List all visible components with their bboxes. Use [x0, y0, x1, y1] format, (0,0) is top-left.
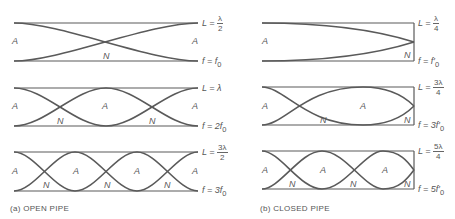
length-equation: L = λ: [202, 84, 222, 93]
frequency-equation: f = f0: [202, 57, 221, 68]
antinode-label: A: [12, 167, 18, 176]
antinode-label: A: [192, 167, 198, 176]
caption-closed-pipe: (b) CLOSED PIPE: [260, 204, 330, 213]
node-label: N: [103, 52, 110, 61]
antinode-label: A: [320, 166, 326, 175]
antinode-label: A: [360, 102, 366, 111]
caption-open-pipe: (a) OPEN PIPE: [10, 204, 69, 213]
node-label: N: [350, 180, 357, 189]
node-label: N: [104, 181, 111, 190]
antinode-label: A: [192, 102, 198, 111]
length-equation: L = λ2: [202, 14, 223, 33]
frequency-equation: f = 5f′0: [418, 185, 444, 196]
node-label: N: [320, 116, 327, 125]
antinode-label: A: [262, 37, 268, 46]
antinode-label: A: [102, 102, 108, 111]
length-equation: L = 3λ4: [418, 78, 444, 97]
frequency-equation: f = 2f0: [202, 122, 226, 133]
node-label: N: [289, 180, 296, 189]
node-label: N: [404, 116, 411, 125]
standing-wave-diagram: [0, 0, 455, 219]
node-label: N: [404, 51, 411, 60]
length-equation: L = 5λ4: [418, 142, 444, 161]
antinode-label: A: [12, 37, 18, 46]
antinode-label: A: [12, 102, 18, 111]
antinode-label: A: [134, 167, 140, 176]
node-label: N: [43, 181, 50, 190]
node-label: N: [57, 117, 64, 126]
frequency-equation: f = f′0: [418, 57, 439, 68]
antinode-label: A: [73, 167, 79, 176]
frequency-equation: f = 3f′0: [418, 121, 444, 132]
frequency-equation: f = 3f0: [202, 186, 226, 197]
length-equation: L = 3λ2: [202, 143, 228, 162]
node-label: N: [404, 180, 411, 189]
node-label: N: [149, 117, 156, 126]
node-label: N: [164, 181, 171, 190]
antinode-label: A: [382, 166, 388, 175]
length-equation: L = λ4: [418, 14, 439, 33]
antinode-label: A: [192, 37, 198, 46]
antinode-label: A: [262, 166, 268, 175]
antinode-label: A: [262, 102, 268, 111]
